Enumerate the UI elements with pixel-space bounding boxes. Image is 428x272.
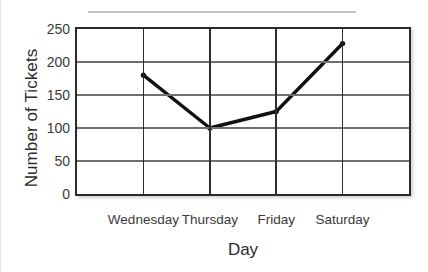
- series-polyline: [143, 44, 342, 128]
- vertical-gridline: [143, 29, 145, 194]
- y-tick-label: 100: [30, 120, 70, 136]
- y-tick-label: 0: [30, 186, 70, 202]
- x-tick-label: Friday: [257, 212, 295, 227]
- horizontal-gridline: [77, 94, 409, 96]
- vertical-gridline: [342, 29, 344, 194]
- line-chart-figure: Number of Tickets 050100150200250 Wednes…: [0, 0, 428, 272]
- vertical-gridline: [275, 29, 277, 194]
- x-tick-label: Saturday: [316, 212, 370, 227]
- y-tick-label: 200: [30, 54, 70, 70]
- y-tick-label: 150: [30, 87, 70, 103]
- data-series-line: [77, 29, 409, 194]
- y-tick-label: 50: [30, 153, 70, 169]
- title-rule-divider: [88, 11, 356, 13]
- plot-area: [75, 27, 411, 196]
- x-tick-label: Wednesday: [108, 212, 179, 227]
- x-tick-label: Thursday: [182, 212, 238, 227]
- vertical-gridline: [209, 29, 211, 194]
- horizontal-gridline: [77, 127, 409, 129]
- y-tick-label: 250: [30, 21, 70, 37]
- horizontal-gridline: [77, 61, 409, 63]
- horizontal-gridline: [77, 160, 409, 162]
- page-edge-decoration: [0, 0, 2, 272]
- x-axis-title: Day: [75, 240, 411, 260]
- y-axis-tick-labels: 050100150200250: [30, 0, 70, 272]
